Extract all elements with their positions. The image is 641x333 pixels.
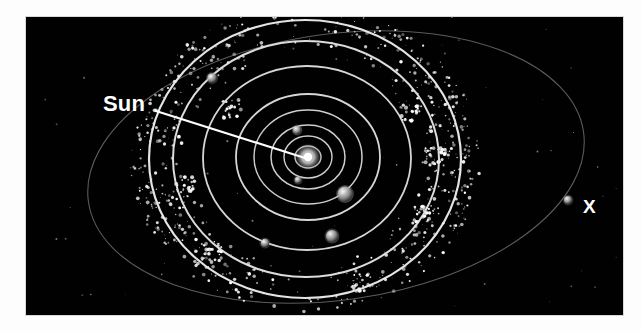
belt-particle [354, 21, 355, 22]
belt-particle [191, 181, 193, 183]
belt-particle [138, 135, 140, 137]
belt-particle [226, 274, 227, 275]
belt-particle [428, 208, 430, 210]
belt-particle [172, 130, 173, 131]
field-star [399, 102, 400, 103]
belt-particle [379, 285, 380, 286]
belt-particle [469, 170, 471, 172]
belt-particle [414, 242, 417, 245]
belt-particle [176, 124, 178, 126]
belt-particle [448, 158, 449, 159]
belt-particle [417, 231, 420, 234]
belt-particle [402, 249, 405, 252]
belt-particle [413, 233, 416, 236]
belt-particle [171, 196, 174, 199]
belt-particle [174, 101, 177, 104]
belt-particle [430, 186, 432, 188]
belt-particle [136, 196, 140, 200]
field-star [312, 246, 313, 247]
belt-particle [247, 272, 248, 273]
belt-particle [232, 289, 233, 290]
belt-particle [270, 288, 271, 289]
belt-particle [438, 186, 440, 188]
belt-particle [253, 257, 255, 259]
belt-particle [164, 234, 165, 235]
belt-particle [427, 177, 431, 181]
belt-particle [360, 275, 362, 277]
field-star [70, 207, 71, 208]
belt-particle [139, 139, 142, 142]
belt-particle [144, 136, 145, 137]
belt-particle [441, 158, 444, 161]
field-star [442, 45, 443, 46]
belt-particle [471, 178, 473, 180]
belt-particle [256, 282, 258, 284]
belt-particle [430, 81, 432, 83]
belt-particle [156, 139, 160, 143]
belt-particle [421, 265, 422, 266]
belt-particle [302, 310, 306, 314]
belt-particle [468, 196, 472, 200]
belt-particle [284, 47, 285, 48]
belt-particle [448, 84, 451, 87]
belt-particle [239, 34, 242, 37]
belt-particle [455, 224, 458, 227]
belt-particle [178, 224, 181, 227]
belt-particle [177, 223, 178, 224]
belt-particle [250, 291, 253, 294]
field-star [44, 99, 46, 101]
belt-particle [328, 31, 330, 33]
belt-particle [181, 103, 183, 105]
belt-particle [403, 118, 406, 121]
belt-particle [191, 47, 194, 50]
belt-particle [147, 215, 150, 218]
planet-uranus-icon [261, 239, 269, 247]
belt-particle [272, 304, 276, 308]
belt-particle [409, 71, 411, 73]
belt-particle [443, 164, 445, 166]
belt-particle [356, 255, 359, 258]
belt-particle [438, 106, 439, 107]
belt-particle [461, 189, 463, 191]
belt-particle [140, 203, 141, 204]
belt-particle [220, 62, 221, 63]
belt-particle [434, 114, 435, 115]
belt-particle [168, 138, 169, 139]
field-star [237, 193, 238, 194]
belt-particle [214, 258, 217, 261]
belt-particle [424, 160, 428, 164]
belt-particle [246, 277, 248, 279]
belt-particle [462, 153, 464, 155]
belt-particle [193, 185, 194, 186]
belt-particle [460, 125, 464, 129]
belt-particle [160, 88, 163, 91]
belt-particle [346, 29, 349, 32]
belt-particle [232, 105, 233, 106]
belt-particle [203, 36, 206, 39]
belt-particle [188, 225, 192, 229]
belt-particle [450, 122, 451, 123]
belt-particle [459, 225, 460, 226]
belt-particle [199, 247, 200, 248]
belt-particle [270, 265, 272, 267]
belt-particle [334, 30, 338, 34]
belt-particle [154, 171, 157, 174]
belt-particle [420, 105, 422, 107]
belt-particle [192, 67, 195, 70]
belt-particle [476, 140, 478, 142]
belt-particle [370, 58, 373, 61]
belt-particle [144, 164, 147, 167]
field-star [83, 77, 85, 79]
belt-particle [173, 191, 175, 193]
belt-particle [392, 38, 393, 39]
belt-particle [252, 274, 255, 277]
belt-particle [443, 189, 446, 192]
belt-particle [431, 224, 434, 227]
field-star [546, 29, 547, 30]
field-star [341, 267, 343, 269]
belt-particle [364, 57, 366, 59]
belt-particle [175, 163, 178, 166]
belt-particle [241, 257, 243, 259]
belt-particle [137, 169, 138, 170]
belt-particle [411, 221, 414, 224]
